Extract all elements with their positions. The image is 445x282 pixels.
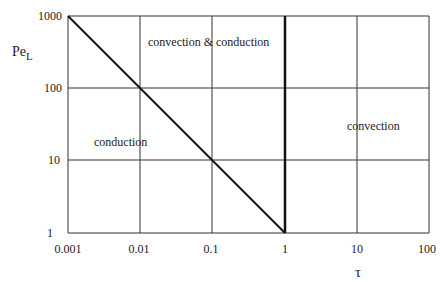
svg-text:100: 100	[418, 242, 436, 256]
svg-text:0.1: 0.1	[204, 242, 219, 256]
svg-text:1: 1	[47, 226, 53, 240]
x-axis-label: τ	[355, 264, 361, 280]
svg-text:0.01: 0.01	[129, 242, 150, 256]
region-label-convection: convection	[347, 119, 400, 133]
svg-text:1000: 1000	[38, 9, 62, 23]
y-tick-labels: 1000 100 10 1	[38, 9, 62, 240]
region-label-conduction: conduction	[94, 135, 147, 149]
svg-text:10: 10	[48, 153, 60, 167]
x-tick-labels: 0.001 0.01 0.1 1 10 100	[55, 242, 437, 256]
svg-text:100: 100	[44, 81, 62, 95]
chart: 1000 100 10 1 0.001 0.01 0.1 1 10 100 Pe…	[0, 0, 445, 282]
y-axis-label: PeL	[12, 44, 33, 62]
svg-text:1: 1	[282, 242, 288, 256]
region-label-mixed: convection & conduction	[148, 35, 269, 49]
svg-text:10: 10	[351, 242, 363, 256]
svg-text:0.001: 0.001	[55, 242, 82, 256]
